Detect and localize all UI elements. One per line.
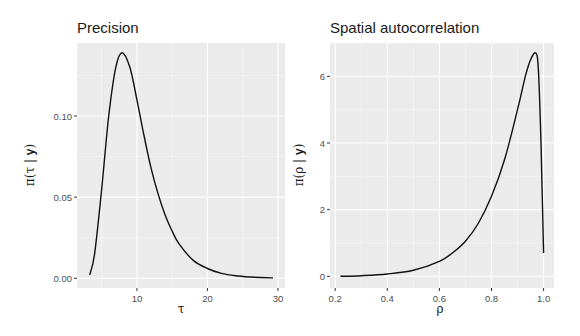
y-axis-label: π(ρ | y) — [292, 144, 306, 187]
x-tick-label: 10 — [132, 293, 143, 304]
x-tick-label: 30 — [273, 293, 284, 304]
x-tick-label: 20 — [202, 293, 213, 304]
chart-title: Spatial autocorrelation — [330, 19, 479, 36]
x-axis-label: τ — [178, 302, 185, 316]
y-tick-label: 4 — [320, 138, 325, 149]
x-tick-label: 1.0 — [537, 293, 550, 304]
y-axis-label: π(τ | y) — [23, 144, 37, 186]
figure: Precision 1020300.000.050.10 τ π(τ | y) … — [0, 0, 580, 336]
precision-chart: Precision 1020300.000.050.10 τ π(τ | y) — [23, 19, 285, 316]
chart-title: Precision — [77, 19, 139, 36]
plot-panel — [330, 43, 554, 288]
plot-panel — [77, 43, 285, 288]
y-label-prefix: π(τ | — [23, 155, 37, 186]
spatial-autocorrelation-chart: Spatial autocorrelation 0.20.40.60.81.00… — [292, 19, 554, 316]
y-tick-label: 0.00 — [54, 273, 73, 284]
y-tick-label: 2 — [320, 204, 325, 215]
y-tick-label: 0.05 — [54, 192, 73, 203]
x-tick-label: 0.4 — [381, 293, 394, 304]
x-tick-label: 0.8 — [485, 293, 498, 304]
y-tick-label: 0.10 — [54, 111, 73, 122]
x-tick-label: 0.2 — [329, 293, 342, 304]
y-tick-label: 6 — [320, 71, 325, 82]
y-tick-label: 0 — [320, 271, 325, 282]
x-axis-label: ρ — [436, 302, 443, 316]
